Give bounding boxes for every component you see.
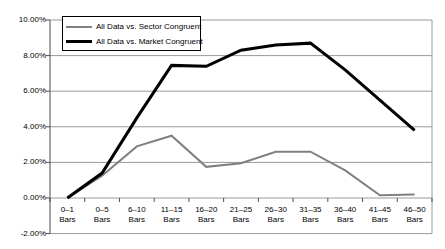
y-axis-tick-label: -2.00%: [21, 229, 46, 238]
legend-line-market-icon: [66, 40, 92, 43]
x-axis-tick-label: 46–50Bars: [397, 205, 432, 225]
chart-legend: All Data vs. Sector Congruent All Data v…: [62, 16, 201, 51]
x-axis-tick-label: 6–10Bars: [119, 205, 154, 225]
x-axis-tick-label: 36–40Bars: [328, 205, 363, 225]
legend-label-market: All Data vs. Market Congruent: [96, 37, 203, 46]
y-axis-tick-label: 10.00%: [19, 15, 46, 24]
legend-line-sector-icon: [66, 26, 92, 28]
x-axis-tick-label: 41–45Bars: [363, 205, 398, 225]
y-axis-tick-label: 8.00%: [23, 51, 46, 60]
x-axis-tick-label: 11–15Bars: [154, 205, 189, 225]
line-chart: 10.00%8.00%6.00%4.00%2.00%0.00%-2.00% 0–…: [0, 0, 445, 249]
y-axis-labels: 10.00%8.00%6.00%4.00%2.00%0.00%-2.00%: [0, 0, 46, 249]
x-axis-tick-label: 21–25Bars: [224, 205, 259, 225]
x-axis-tick-label: 16–20Bars: [189, 205, 224, 225]
legend-label-sector: All Data vs. Sector Congruent: [96, 22, 201, 31]
legend-item-sector: All Data vs. Sector Congruent: [66, 19, 197, 34]
y-axis-tick-label: 4.00%: [23, 122, 46, 131]
x-axis-tick-label: 26–30Bars: [258, 205, 293, 225]
y-axis-tick-label: 2.00%: [23, 157, 46, 166]
x-axis-tick-label: 0–5Bars: [85, 205, 120, 225]
y-axis-tick-label: 6.00%: [23, 86, 46, 95]
x-axis-tick-label: 31–35Bars: [293, 205, 328, 225]
y-axis-tick-label: 0.00%: [23, 193, 46, 202]
x-axis-tick-label: 0–1Bars: [50, 205, 85, 225]
legend-item-market: All Data vs. Market Congruent: [66, 34, 197, 49]
